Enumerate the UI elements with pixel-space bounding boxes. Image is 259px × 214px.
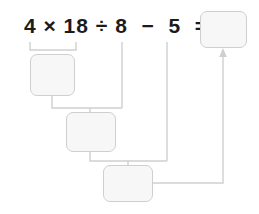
answer-box-quotient[interactable] [66,112,116,152]
answer-box-product[interactable] [30,54,75,96]
bracket-multiplication [30,42,76,50]
arrowhead-icon [219,48,227,57]
answer-box-result[interactable] [200,11,247,48]
answer-box-difference[interactable] [103,165,153,202]
connector-quotient-to-difference-left [90,152,167,161]
connector-product-to-quotient-left [52,96,122,108]
connector-difference-to-result [153,54,223,183]
order-of-operations-worksheet: 4 × 18 ÷ 8 − 5 = [0,0,259,214]
